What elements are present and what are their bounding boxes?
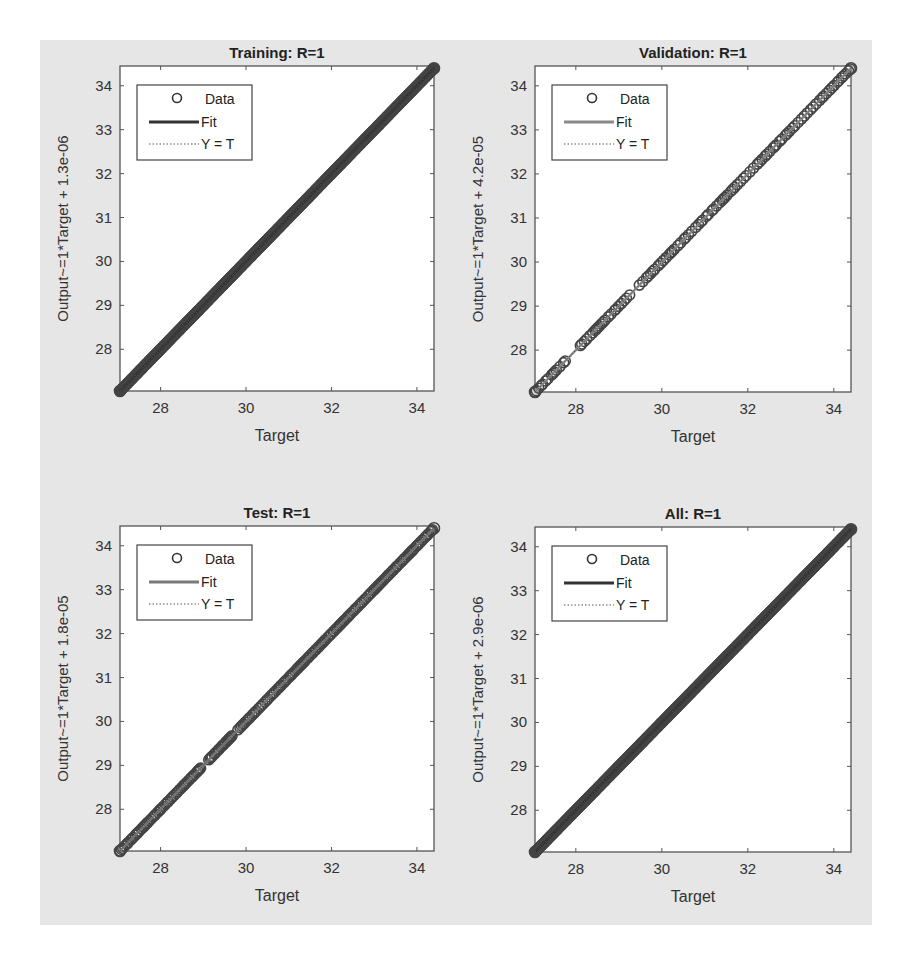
- legend-label: Data: [620, 91, 650, 107]
- validation-x-axis-label: Target: [671, 428, 716, 445]
- x-tick-label: 30: [653, 400, 670, 417]
- x-tick-label: 30: [653, 860, 670, 877]
- y-tick-label: 34: [95, 537, 112, 554]
- x-tick-label: 30: [238, 859, 255, 876]
- y-tick-label: 34: [510, 77, 527, 94]
- x-tick-label: 30: [238, 399, 255, 416]
- y-tick-label: 33: [510, 121, 527, 138]
- y-tick-label: 31: [95, 209, 112, 226]
- legend-label: Fit: [616, 114, 632, 130]
- legend-label: Y = T: [616, 136, 650, 152]
- y-tick-label: 32: [510, 165, 527, 182]
- y-tick-label: 31: [510, 209, 527, 226]
- y-tick-label: 28: [510, 801, 527, 818]
- x-tick-label: 32: [739, 860, 756, 877]
- all-title: All: R=1: [665, 505, 721, 522]
- test-y-axis-label: Output~=1*Target + 1.8e-05: [54, 595, 71, 781]
- y-tick-label: 33: [510, 582, 527, 599]
- all-x-axis-label: Target: [671, 888, 716, 905]
- y-tick-label: 32: [95, 165, 112, 182]
- y-tick-label: 29: [95, 756, 112, 773]
- y-tick-label: 31: [95, 669, 112, 686]
- training-subplot: Training: R=12830323428293031323334Targe…: [54, 44, 440, 444]
- x-tick-label: 28: [152, 859, 169, 876]
- x-tick-label: 32: [323, 399, 340, 416]
- x-tick-label: 32: [323, 859, 340, 876]
- x-tick-label: 28: [567, 860, 584, 877]
- legend-label: Fit: [201, 574, 217, 590]
- y-tick-label: 30: [95, 712, 112, 729]
- training-legend: DataFitY = T: [137, 85, 252, 160]
- y-tick-label: 28: [95, 800, 112, 817]
- y-tick-label: 33: [95, 581, 112, 598]
- test-subplot: Test: R=12830323428293031323334TargetOut…: [54, 504, 440, 904]
- legend-label: Y = T: [201, 136, 235, 152]
- validation-y-axis-label: Output~=1*Target + 4.2e-05: [469, 136, 486, 322]
- x-tick-label: 28: [152, 399, 169, 416]
- training-x-axis-label: Target: [255, 427, 300, 444]
- training-y-axis-label: Output~=1*Target + 1.3e-06: [54, 135, 71, 321]
- x-tick-label: 28: [567, 400, 584, 417]
- x-tick-label: 34: [825, 400, 842, 417]
- validation-title: Validation: R=1: [639, 44, 747, 61]
- y-tick-label: 30: [510, 713, 527, 730]
- x-tick-label: 34: [409, 399, 426, 416]
- x-tick-label: 34: [409, 859, 426, 876]
- y-tick-label: 30: [95, 252, 112, 269]
- test-legend: DataFitY = T: [137, 545, 252, 620]
- x-tick-label: 34: [825, 860, 842, 877]
- y-tick-label: 30: [510, 253, 527, 270]
- training-title: Training: R=1: [229, 44, 324, 61]
- legend-label: Data: [205, 551, 235, 567]
- legend-label: Y = T: [201, 596, 235, 612]
- all-legend: DataFitY = T: [552, 546, 667, 621]
- validation-legend: DataFitY = T: [552, 85, 667, 160]
- regression-figure: Training: R=12830323428293031323334Targe…: [40, 40, 872, 925]
- y-tick-label: 33: [95, 121, 112, 138]
- y-tick-label: 28: [510, 341, 527, 358]
- all-subplot: All: R=12830323428293031323334TargetOutp…: [469, 505, 857, 905]
- y-tick-label: 34: [510, 538, 527, 555]
- y-tick-label: 31: [510, 670, 527, 687]
- y-tick-label: 29: [510, 297, 527, 314]
- regression-plots: Training: R=12830323428293031323334Targe…: [40, 40, 872, 925]
- test-title: Test: R=1: [244, 504, 311, 521]
- legend-label: Fit: [201, 114, 217, 130]
- legend-label: Data: [620, 552, 650, 568]
- x-tick-label: 32: [739, 400, 756, 417]
- validation-subplot: Validation: R=12830323428293031323334Tar…: [469, 44, 857, 445]
- y-tick-label: 29: [95, 296, 112, 313]
- test-x-axis-label: Target: [255, 887, 300, 904]
- y-tick-label: 34: [95, 77, 112, 94]
- legend-label: Data: [205, 91, 235, 107]
- all-y-axis-label: Output~=1*Target + 2.9e-06: [469, 596, 486, 782]
- y-tick-label: 28: [95, 340, 112, 357]
- legend-label: Fit: [616, 575, 632, 591]
- legend-label: Y = T: [616, 597, 650, 613]
- y-tick-label: 32: [95, 625, 112, 642]
- y-tick-label: 32: [510, 626, 527, 643]
- y-tick-label: 29: [510, 757, 527, 774]
